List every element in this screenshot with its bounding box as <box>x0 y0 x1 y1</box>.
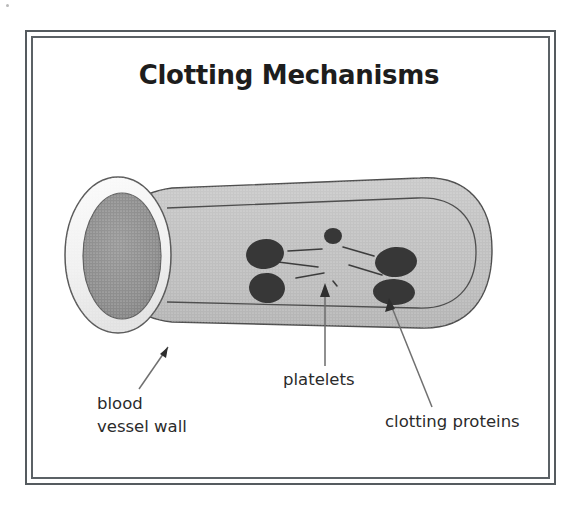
label-blood-line1: blood <box>97 393 187 416</box>
label-blood-vessel-wall: blood vessel wall <box>97 393 187 439</box>
label-platelets: platelets <box>283 369 355 392</box>
label-clotting-proteins: clotting proteins <box>385 411 520 434</box>
label-blood-line2: vessel wall <box>97 416 187 439</box>
figure-page: Clotting Mechanisms <box>0 0 578 513</box>
platelet-top-center <box>324 228 342 244</box>
vessel-lumen <box>83 193 161 319</box>
leader-blood-vessel-wall <box>139 347 168 389</box>
blood-vessel-illustration <box>0 0 578 513</box>
